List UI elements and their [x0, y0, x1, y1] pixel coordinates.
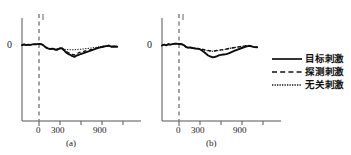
x-tick-label-900-a: 900 — [93, 126, 107, 135]
x-tick-label-0-a: 0 — [36, 126, 41, 135]
y-axis-zero-label-b: 0 — [147, 40, 152, 50]
legend-item-probe: 探测刺激 — [272, 65, 351, 78]
panel-caption-a: (a) — [66, 139, 76, 148]
x-tick-label-300-b: 300 — [191, 126, 205, 135]
legend-sample-dashed-icon — [272, 71, 302, 73]
legend-item-irrelevant: 无关刺激 — [272, 78, 351, 91]
legend-label-target: 目标刺激 — [305, 52, 344, 65]
panel-caption-b: (b) — [206, 139, 217, 148]
legend-sample-solid-icon — [272, 58, 302, 60]
x-tick-label-0-b: 0 — [176, 126, 181, 135]
x-tick-label-900-b: 900 — [233, 126, 247, 135]
y-axis-zero-label-a: 0 — [7, 40, 12, 50]
erp-figure: 0 0 300 900 (a) 0 0 300 900 ( — [0, 0, 351, 155]
legend: 目标刺激 探测刺激 无关刺激 — [272, 52, 351, 94]
legend-label-probe: 探测刺激 — [305, 65, 344, 78]
panel-a-plot — [0, 0, 160, 155]
legend-item-target: 目标刺激 — [272, 52, 351, 65]
legend-sample-dotted-icon — [272, 84, 302, 86]
x-tick-label-300-a: 300 — [51, 126, 65, 135]
series-target-a — [22, 44, 117, 57]
panel-a: 0 0 300 900 (a) — [0, 0, 160, 155]
legend-label-irrelevant: 无关刺激 — [305, 78, 344, 91]
